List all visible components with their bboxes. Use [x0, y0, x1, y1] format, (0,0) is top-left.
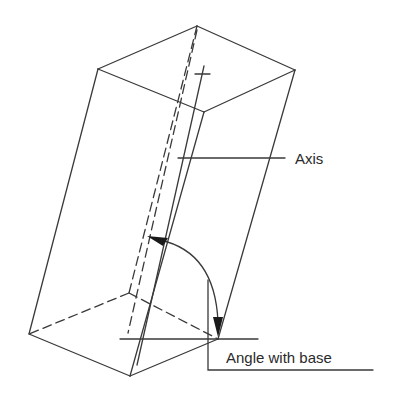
angle-arc	[160, 240, 218, 322]
visible-edges	[29, 69, 295, 376]
axis-label: Axis	[295, 150, 323, 167]
angle-label: Angle with base	[226, 349, 332, 366]
arrowhead-left-icon	[147, 236, 168, 246]
hidden-edges	[29, 26, 218, 339]
hidden-axis-line	[128, 30, 197, 333]
axis-line	[137, 66, 210, 365]
prism-diagram: Axis Angle with base	[0, 0, 408, 397]
